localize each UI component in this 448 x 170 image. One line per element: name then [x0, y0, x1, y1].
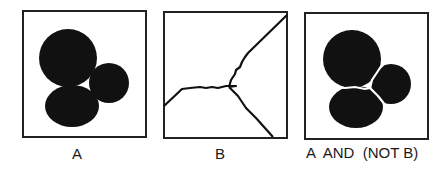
panel-c: [305, 13, 428, 139]
blob-large: [39, 29, 97, 87]
panel-a: [23, 11, 146, 137]
panel-b: [164, 12, 287, 138]
panel-c-label: A AND (NOT B): [306, 144, 418, 161]
blob-bottom: [45, 85, 99, 127]
panel-a-label: A: [72, 145, 82, 162]
panel-b-label: B: [215, 145, 225, 162]
panel-b-frame: [164, 12, 287, 138]
